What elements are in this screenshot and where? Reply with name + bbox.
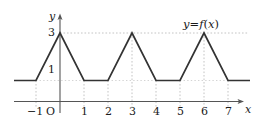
y-axis-label: y — [49, 11, 55, 22]
x-tick-label-2: 2 — [105, 106, 112, 117]
y-tick-label-3: 3 — [48, 27, 55, 38]
x-tick-label-7: 7 — [225, 106, 232, 117]
curve-equation-label: y=f(x) — [183, 19, 219, 31]
x-axis — [14, 99, 244, 104]
y-axis — [58, 14, 63, 114]
x-tick-label-6: 6 — [201, 106, 208, 117]
origin-label: O — [46, 106, 55, 117]
x-tick-label-3: 3 — [129, 106, 136, 117]
curve-equation-close-paren: ) — [214, 17, 219, 31]
horizontal-gridlines — [36, 33, 250, 81]
x-tick-label-4: 4 — [153, 106, 160, 117]
x-tick-label-5: 5 — [177, 106, 184, 117]
x-axis-label: x — [245, 104, 251, 115]
x-tick-label-1: 1 — [81, 106, 88, 117]
curve-equation-equals: = — [190, 17, 200, 31]
y-tick-label-1: 1 — [48, 64, 55, 75]
function-graph-figure: y x O 3 1 −1 1 2 3 4 5 6 7 y=f(x) — [0, 0, 263, 134]
x-tick-label-minus1: −1 — [27, 106, 43, 117]
